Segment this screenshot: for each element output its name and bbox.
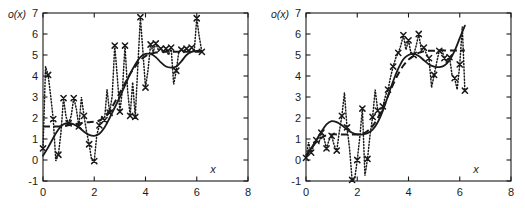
y-tick-label: 0	[295, 154, 301, 166]
x-tick-label: 2	[354, 186, 360, 198]
y-axis-label: o(x)	[8, 8, 26, 20]
y-tick-label: 2	[32, 112, 38, 124]
y-tick-label: -1	[28, 175, 38, 187]
x-tick-label: 0	[303, 186, 309, 198]
plot-panel-left: 76543210-102468o(x)x	[0, 0, 262, 208]
plot-svg-right: 76543210-102468o(x)x	[263, 0, 525, 208]
y-tick-label: 4	[295, 70, 301, 82]
y-tick-label: 5	[295, 49, 301, 61]
y-tick-label: 4	[32, 70, 38, 82]
plot-panel-right: 76543210-102468o(x)x	[263, 0, 525, 208]
y-tick-label: 3	[32, 91, 38, 103]
y-tick-label: 2	[295, 112, 301, 124]
x-axis-label: x	[209, 163, 216, 175]
x-tick-label: 6	[194, 186, 200, 198]
x-marker	[189, 45, 194, 50]
x-marker	[184, 46, 189, 51]
x-tick-label: 2	[91, 186, 97, 198]
x-tick-label: 8	[245, 186, 251, 198]
x-tick-label: 8	[508, 186, 514, 198]
x-axis-label: x	[472, 163, 479, 175]
y-tick-label: 3	[295, 91, 301, 103]
axes-right: 76543210-102468o(x)x	[271, 7, 514, 198]
y-tick-label: 1	[32, 133, 38, 145]
x-tick-label: 4	[142, 186, 148, 198]
y-tick-label: 0	[32, 154, 38, 166]
y-tick-label: 5	[32, 49, 38, 61]
x-marker	[158, 46, 163, 51]
y-tick-label: 7	[32, 7, 38, 19]
x-tick-label: 6	[457, 186, 463, 198]
y-axis-label: o(x)	[271, 8, 289, 20]
axes-left: 76543210-102468o(x)x	[8, 7, 251, 198]
plot-svg-left: 76543210-102468o(x)x	[0, 0, 262, 208]
plot-box	[306, 13, 511, 181]
y-tick-label: 6	[295, 28, 301, 40]
x-tick-label: 0	[40, 186, 46, 198]
x-marker	[396, 50, 401, 55]
figure-root: 76543210-102468o(x)x 76543210-102468o(x)…	[0, 0, 525, 208]
x-marker	[169, 45, 174, 50]
solid-fit-curve	[43, 51, 202, 156]
y-tick-label: 7	[295, 7, 301, 19]
y-tick-label: 1	[295, 133, 301, 145]
y-tick-label: -1	[291, 175, 301, 187]
x-marker	[391, 64, 396, 69]
y-tick-label: 6	[32, 28, 38, 40]
x-tick-label: 4	[405, 186, 411, 198]
